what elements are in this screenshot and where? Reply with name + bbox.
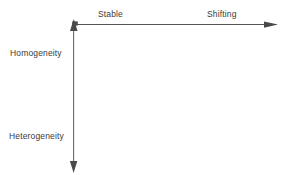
diagram-canvas: Stable Shifting Homogeneity Heterogeneit… — [0, 0, 286, 175]
axis-label-heterogeneity: Heterogeneity — [9, 131, 64, 141]
axis-label-shifting: Shifting — [207, 9, 237, 19]
right-arrowhead-icon — [264, 21, 278, 27]
axis-corner-joint — [72, 21, 78, 25]
down-arrowhead-icon — [70, 161, 77, 173]
axes-graphic — [0, 0, 286, 175]
axis-label-stable: Stable — [98, 9, 123, 19]
axis-label-homogeneity: Homogeneity — [10, 48, 62, 58]
